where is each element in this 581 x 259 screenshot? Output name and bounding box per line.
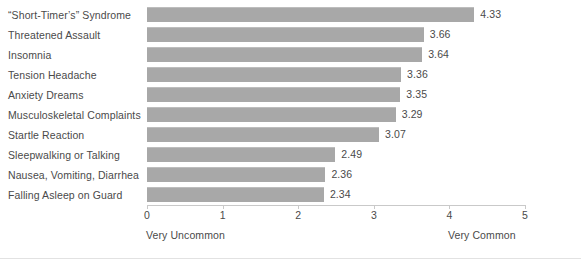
x-axis-tick-label: 0 [127,209,167,221]
category-label: Insomnia [8,45,140,65]
axis-endpoint-label-low: Very Uncommon [146,229,225,241]
bar [147,27,424,42]
bar-row: 3.29 [147,105,525,125]
bar-row: 3.07 [147,125,525,145]
bar-row: 2.36 [147,165,525,185]
bar [147,67,401,82]
bar [147,187,324,202]
category-label: “Short-Timer’s” Syndrome [8,5,140,25]
bar-row: 3.66 [147,25,525,45]
bar-value-label: 3.66 [430,27,451,42]
x-axis-tick-label: 1 [203,209,243,221]
x-axis-tick-label: 5 [505,209,545,221]
bar-row: 3.64 [147,45,525,65]
bar-value-label: 2.36 [331,167,352,182]
x-axis-tick-label: 4 [429,209,469,221]
bar-value-label: 3.29 [402,107,423,122]
category-label: Startle Reaction [8,125,140,145]
bar [147,87,400,102]
category-label: Musculoskeletal Complaints [8,105,140,125]
bar-row: 3.36 [147,65,525,85]
category-label: Tension Headache [8,65,140,85]
bar-value-label: 4.33 [480,7,501,22]
category-axis-labels: “Short-Timer’s” SyndromeThreatened Assau… [0,0,144,205]
bar [147,147,335,162]
x-axis-line [147,205,526,206]
bar [147,107,396,122]
bar-value-label: 3.07 [385,127,406,142]
bar-value-label: 3.36 [407,67,428,82]
bar [147,7,474,22]
category-label: Anxiety Dreams [8,85,140,105]
bar-row: 2.49 [147,145,525,165]
x-axis-tick-label: 3 [354,209,394,221]
bar-value-label: 2.34 [330,187,351,202]
bar [147,167,325,182]
bar-row: 2.34 [147,185,525,205]
axis-endpoint-label-high: Very Common [448,229,516,241]
bar-row: 3.35 [147,85,525,105]
category-label: Nausea, Vomiting, Diarrhea [8,165,140,185]
plot-area: 4.333.663.643.363.353.293.072.492.362.34 [147,0,525,205]
category-label: Sleepwalking or Talking [8,145,140,165]
bar-value-label: 2.49 [341,147,362,162]
category-label: Falling Asleep on Guard [8,185,140,205]
bar-value-label: 3.35 [406,87,427,102]
bar [147,127,379,142]
horizontal-bar-chart: “Short-Timer’s” SyndromeThreatened Assau… [0,0,581,259]
bar-value-label: 3.64 [428,47,449,62]
category-label: Threatened Assault [8,25,140,45]
x-axis-tick-label: 2 [278,209,318,221]
bar-row: 4.33 [147,5,525,25]
bar [147,47,422,62]
